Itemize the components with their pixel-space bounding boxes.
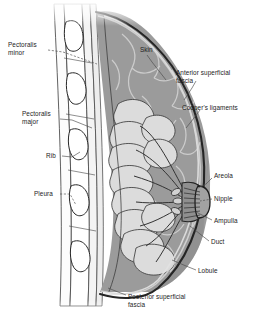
lobule	[144, 139, 177, 168]
label-pectoralis-minor: Pectoralis minor	[8, 41, 37, 57]
label-posterior-superficial-fascia: Posterior superficial fascia	[128, 293, 186, 309]
label-skin: Skin	[140, 46, 153, 54]
label-duct: Duct	[211, 238, 224, 246]
anatomy-illustration	[0, 0, 257, 324]
label-pleura: Pleura	[34, 190, 53, 198]
top-fade	[0, 0, 257, 26]
breast-anatomy-diagram: Pectoralis minor Pectoralis major Rib Pl…	[0, 0, 257, 324]
label-areola: Areola	[214, 172, 233, 180]
nipple	[195, 186, 210, 218]
label-ampulla: Ampulla	[214, 217, 238, 225]
label-pectoralis-major: Pectoralis major	[22, 110, 51, 126]
breast-mass-group	[96, 10, 215, 300]
lobule	[142, 203, 175, 232]
label-coopers-ligaments: Cooper's ligaments	[182, 104, 238, 112]
label-anterior-superficial-fascia: Anterior superficial fascia	[176, 69, 230, 85]
chest-wall-group	[54, 4, 103, 306]
label-nipple: Nipple	[214, 195, 233, 203]
nipple-areola-group	[182, 182, 210, 222]
label-rib: Rib	[46, 152, 56, 160]
label-lobule: Lobule	[198, 267, 218, 275]
